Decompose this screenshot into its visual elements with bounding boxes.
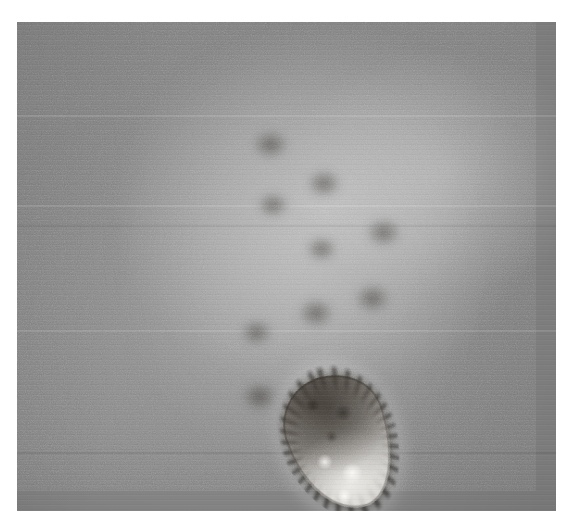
stain-bridge [251, 188, 294, 222]
stain-bridge [246, 125, 295, 164]
stain-bridge [348, 279, 397, 318]
stain-bridge [359, 213, 408, 252]
artifact-band [17, 205, 556, 207]
micrograph-figure: Black-and-white transmission electron mi… [0, 0, 567, 526]
stain-bridge [292, 293, 341, 332]
pleomorphic-virus-particle [271, 362, 411, 511]
stain-bridge [235, 315, 278, 349]
stain-bridge [300, 164, 349, 203]
artifact-band [17, 115, 556, 117]
artifact-band [17, 225, 556, 227]
micrograph-plate [17, 22, 556, 511]
stain-bridge [300, 232, 343, 266]
artifact-band [17, 330, 556, 332]
